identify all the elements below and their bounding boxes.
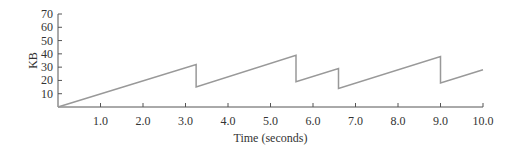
y-tick-label: 30 [41,60,53,74]
x-tick-label: 1.0 [93,114,108,128]
y-tick-label: 20 [41,73,53,87]
y-tick-label: 40 [41,47,53,61]
y-tick-label: 50 [41,34,53,48]
x-tick-label: 3.0 [178,114,193,128]
x-tick-label: 5.0 [263,114,278,128]
y-tick-label: 60 [41,20,53,34]
x-tick-label: 10.0 [473,114,494,128]
y-tick-label: 70 [41,7,53,21]
x-tick-label: 4.0 [221,114,236,128]
x-tick-label: 7.0 [348,114,363,128]
data-line [58,55,483,107]
x-tick-label: 9.0 [433,114,448,128]
sawtooth-line-chart: 1.02.03.04.05.06.07.08.09.010.0102030405… [0,0,518,156]
x-tick-label: 2.0 [136,114,151,128]
y-axis-label: KB [26,52,40,69]
x-tick-label: 8.0 [391,114,406,128]
x-axis-label: Time (seconds) [234,131,308,145]
x-tick-label: 6.0 [306,114,321,128]
y-tick-label: 10 [41,87,53,101]
